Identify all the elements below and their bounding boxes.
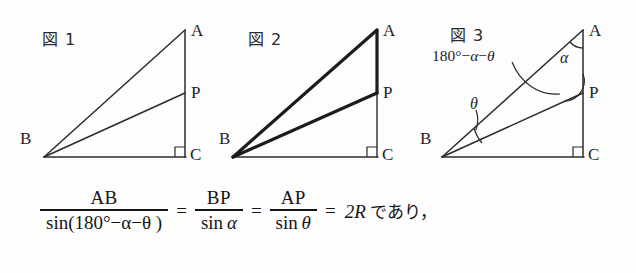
figure-3-label-C: C [588, 146, 599, 163]
fraction-AB-over-sin-supplement: AB sin(180°−α−θ ) [40, 188, 168, 232]
figure-3-label-B: B [420, 130, 431, 147]
figure-1-label-P: P [191, 84, 200, 101]
right-angle-mark-C [175, 147, 185, 157]
supplement-prefix: 180°− [432, 47, 470, 64]
figure-2-label-B: B [219, 130, 230, 147]
figure-1: 図 1 A B C P [0, 0, 220, 180]
figure-2: 図 2 A B C P [220, 0, 420, 180]
formula-trailing-text: であり， [366, 202, 437, 222]
equals-sign-2: = [245, 201, 268, 220]
figure-3-angle-label-alpha: α [560, 50, 568, 66]
fraction-1-numerator: AB [84, 188, 123, 209]
leader-line-angle-B [476, 110, 478, 130]
figure-1-label-C: C [190, 146, 201, 163]
segment-BP [442, 93, 583, 157]
figure-1-label-B: B [20, 130, 31, 147]
fraction-1-denominator: sin(180°−α−θ ) [40, 211, 168, 233]
supplement-theta: θ [487, 47, 495, 64]
segment-BP [44, 93, 185, 157]
figure-1-label-A: A [191, 22, 203, 39]
figure-1-caption: 図 1 [42, 26, 76, 50]
fraction-BP-over-sin-alpha: BP sin α [195, 188, 243, 232]
figure-3-angle-label-theta: θ [470, 96, 478, 112]
figure-3-angle-label-supplement: 180°−α−θ [432, 48, 495, 64]
sin-arg-2: α [227, 212, 237, 233]
figure-2-label-P: P [383, 84, 392, 101]
segment-PB-bold [233, 93, 377, 157]
fraction-3-numerator: AP [275, 188, 312, 209]
fraction-3-denominator: sin θ [270, 211, 317, 233]
formula-expression: AB sin(180°−α−θ ) = BP sin α = AP sin θ … [38, 188, 437, 232]
supplement-minus: − [478, 47, 487, 64]
figure-2-caption: 図 2 [248, 26, 282, 50]
right-angle-mark-C [573, 147, 583, 157]
formula-line: AB sin(180°−α−θ ) = BP sin α = AP sin θ … [0, 182, 636, 273]
figure-3: 図 3 A B C P α θ 180°−α−θ [420, 0, 636, 180]
sin-function-2: sin [201, 212, 223, 233]
figure-3-label-P: P [589, 84, 598, 101]
figure-1-drawing [0, 0, 220, 180]
figure-3-label-A: A [589, 22, 601, 39]
right-angle-mark-C [367, 147, 377, 157]
sin-arg-3: θ [302, 212, 311, 233]
angle-arc-A [570, 42, 583, 48]
fraction-2-denominator: sin α [195, 211, 243, 233]
sin-function-1: sin [46, 212, 68, 233]
sin-arg-1: (180°−α−θ ) [68, 212, 162, 233]
fraction-2-numerator: BP [201, 188, 237, 209]
sin-function-3: sin [276, 212, 298, 233]
fraction-AP-over-sin-theta: AP sin θ [270, 188, 317, 232]
figure-3-caption: 図 3 [450, 22, 484, 46]
figures-row: 図 1 A B C P [0, 0, 636, 180]
equals-sign-3: = [319, 201, 342, 220]
figure-2-label-C: C [382, 146, 393, 163]
document-page: 図 1 A B C P [0, 0, 636, 273]
leader-line-angle-P [512, 62, 560, 94]
equals-sign-1: = [170, 201, 193, 220]
formula-result-group: 2Rであり， [342, 198, 437, 223]
formula-result: 2R [345, 201, 366, 222]
figure-2-label-A: A [383, 22, 395, 39]
